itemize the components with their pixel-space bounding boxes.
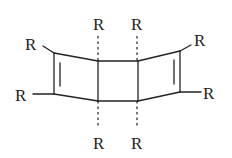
left-ring-top-bond <box>54 53 98 61</box>
r-center-top-left-label: R <box>93 15 105 34</box>
central-cyclobutane-ring <box>98 61 138 101</box>
r-center-top-right-label: R <box>131 15 143 34</box>
bond-top-left-r <box>43 46 54 53</box>
substituent-bonds <box>33 36 201 127</box>
r-center-bottom-left-label: R <box>93 134 105 153</box>
substituent-labels: R R R R R R R R <box>15 15 215 153</box>
bond-top-right-r <box>180 45 191 51</box>
left-cyclobutene-ring <box>54 53 98 101</box>
chemical-structure-diagram: R R R R R R R R <box>0 0 232 158</box>
r-mid-left-label: R <box>15 86 27 105</box>
r-top-left-label: R <box>25 35 37 54</box>
r-mid-right-label: R <box>203 84 215 103</box>
r-top-right-label: R <box>194 31 206 50</box>
left-ring-bottom-bond <box>54 94 98 101</box>
r-center-bottom-right-label: R <box>131 134 143 153</box>
right-ring-bottom-bond <box>138 92 180 101</box>
right-cyclobutene-ring <box>138 51 180 101</box>
